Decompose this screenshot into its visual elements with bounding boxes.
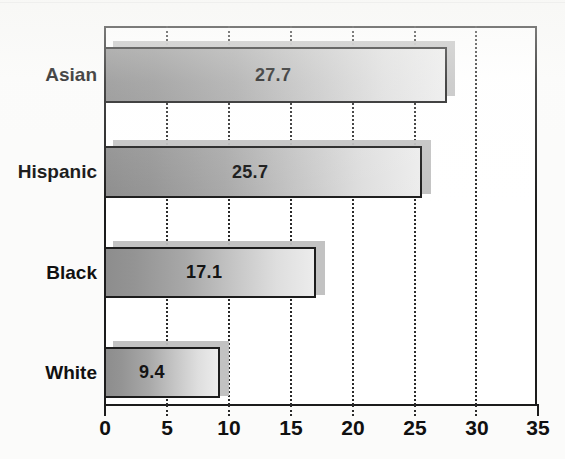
xtick-label-20: 20 <box>341 416 364 440</box>
bar-value-white: 9.4 <box>139 362 165 383</box>
xtick-label-30: 30 <box>465 416 488 440</box>
tick-10 <box>228 405 230 416</box>
xtick-label-5: 5 <box>161 416 173 440</box>
category-label-black: Black <box>1 262 97 284</box>
chart-page: 27.7 25.7 17.1 9.4 Asian Hispanic Black … <box>0 0 565 459</box>
tick-25 <box>414 405 416 416</box>
bar-value-black: 17.1 <box>186 262 222 283</box>
tick-30 <box>475 405 477 416</box>
category-axis-labels: Asian Hispanic Black White <box>0 0 97 459</box>
category-label-hispanic: Hispanic <box>1 161 97 183</box>
bar-value-hispanic: 25.7 <box>232 162 268 183</box>
tick-15 <box>290 405 292 416</box>
category-label-white: White <box>1 362 97 384</box>
tick-35 <box>537 405 539 416</box>
tick-5 <box>166 405 168 416</box>
xtick-label-25: 25 <box>403 416 426 440</box>
bar-value-asian: 27.7 <box>255 65 291 86</box>
category-label-asian: Asian <box>1 64 97 86</box>
x-axis-line <box>104 404 539 406</box>
xtick-label-0: 0 <box>99 416 111 440</box>
gridline-30 <box>475 26 477 405</box>
xtick-label-10: 10 <box>217 416 240 440</box>
xtick-label-35: 35 <box>526 416 549 440</box>
tick-0 <box>104 405 106 416</box>
xtick-label-15: 15 <box>279 416 302 440</box>
tick-20 <box>352 405 354 416</box>
